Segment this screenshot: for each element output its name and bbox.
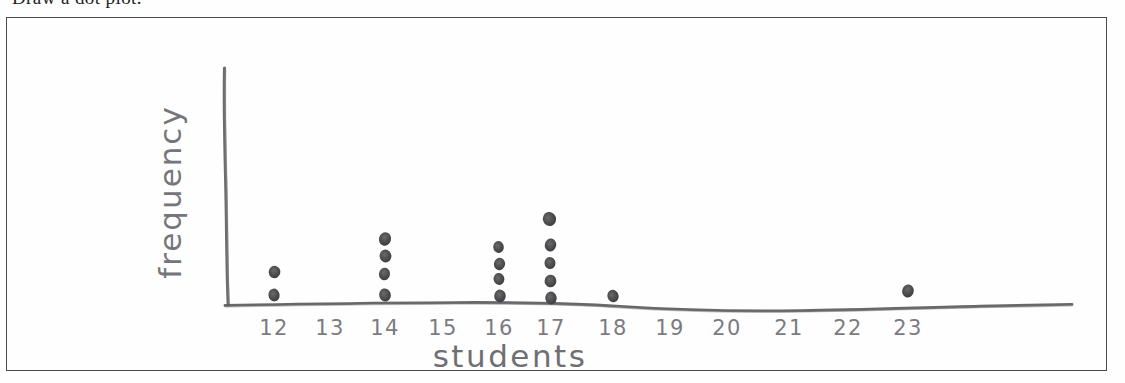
x-tick-label-14: 14 <box>370 316 400 340</box>
x-tick-label-15: 15 <box>428 316 458 340</box>
x-tick-label-16: 16 <box>484 316 514 340</box>
x-tick-label-22: 22 <box>833 316 863 340</box>
x-tick-label-20: 20 <box>712 316 742 340</box>
y-axis-label: frequency <box>152 105 188 278</box>
prompt-text: Draw a dot plot. <box>12 0 142 9</box>
worksheet-page: Draw a dot plot. <box>0 0 1125 383</box>
x-axis-label: students <box>433 338 588 374</box>
x-tick-label-17: 17 <box>536 316 566 340</box>
x-tick-label-19: 19 <box>655 316 685 340</box>
x-tick-label-12: 12 <box>259 316 289 340</box>
x-tick-label-23: 23 <box>893 316 923 340</box>
x-tick-label-13: 13 <box>315 316 345 340</box>
x-tick-label-21: 21 <box>774 316 804 340</box>
x-tick-label-18: 18 <box>598 316 628 340</box>
